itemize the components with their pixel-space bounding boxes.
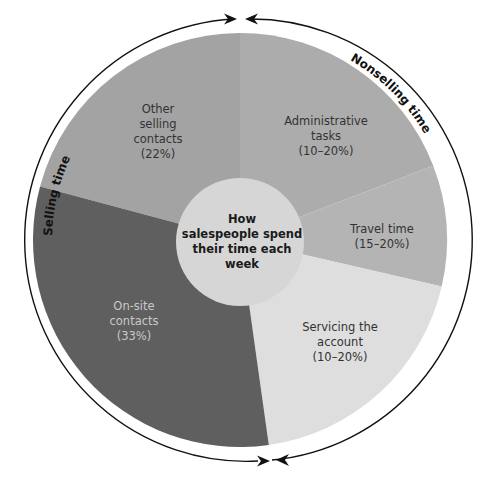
label-on-site-contacts: On-site contacts (33%): [109, 299, 158, 343]
svg-text:Other: Other: [142, 102, 175, 116]
svg-text:contacts: contacts: [109, 314, 158, 328]
svg-text:tasks: tasks: [311, 129, 341, 143]
svg-text:account: account: [317, 335, 363, 349]
sales-time-pie-diagram: Selling time Nonselling time Other selli…: [0, 0, 478, 486]
svg-text:Servicing the: Servicing the: [302, 320, 378, 334]
svg-text:(10–20%): (10–20%): [299, 144, 354, 158]
svg-text:week: week: [225, 257, 259, 271]
svg-text:their time each: their time each: [193, 242, 292, 256]
svg-text:How: How: [228, 212, 257, 226]
arrowhead-bottom-left-pointing-icon: [276, 454, 289, 466]
svg-text:(10–20%): (10–20%): [313, 350, 368, 364]
svg-text:(22%): (22%): [141, 147, 176, 161]
svg-text:Travel time: Travel time: [349, 222, 414, 236]
label-travel-time: Travel time (15–20%): [349, 222, 414, 251]
svg-text:Administrative: Administrative: [284, 114, 368, 128]
svg-text:contacts: contacts: [133, 132, 182, 146]
svg-text:On-site: On-site: [113, 299, 154, 313]
svg-text:salespeople spend: salespeople spend: [182, 227, 302, 241]
svg-text:selling: selling: [139, 117, 176, 131]
arrowhead-bottom-right-pointing-icon: [257, 456, 270, 467]
svg-text:(15–20%): (15–20%): [355, 237, 410, 251]
svg-text:(33%): (33%): [117, 329, 152, 343]
